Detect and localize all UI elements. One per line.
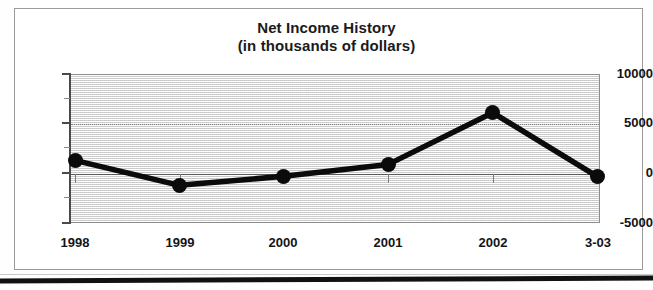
gridline-zero [71,174,599,175]
gridline-5000 [71,124,599,125]
x-axis-label-2002: 2002 [453,236,533,250]
x-tick-2001 [388,174,389,183]
plot-area [70,74,600,223]
x-axis-label-2000: 2000 [243,236,323,250]
y-minor-tick-7500 [64,98,70,99]
y-minor-tick-2500 [64,147,70,148]
y-minor-tick-n2500 [64,197,70,198]
y-axis-label-10000: 10000 [591,67,653,80]
x-axis-label-1998: 1998 [35,236,115,250]
page-bottom-rule [0,276,653,284]
y-axis-label-5000: 5000 [591,116,653,129]
data-point-2001 [381,157,396,172]
data-point-1999 [172,178,187,193]
chart-title: Net Income History (in thousands of doll… [0,19,653,55]
y-tick-0 [62,172,70,174]
y-axis-line [69,73,71,224]
x-axis-label-1999: 1999 [140,236,220,250]
chart-title-line2: (in thousands of dollars) [0,37,653,55]
scanned-page: Net Income History (in thousands of doll… [0,0,653,290]
y-tick-n5000 [62,222,70,224]
data-point-1998 [68,153,83,168]
data-point-3-03 [590,169,605,184]
page-bottom-hairline [0,274,653,275]
x-tick-1998 [75,174,76,183]
y-tick-10000 [62,73,70,75]
x-axis-label-3-03: 3-03 [558,236,638,250]
y-tick-5000 [62,122,70,124]
chart-title-line1: Net Income History [257,19,396,36]
y-axis-label-n5000: -5000 [591,216,653,229]
x-axis-label-2001: 2001 [348,236,428,250]
x-tick-2002 [493,174,494,183]
